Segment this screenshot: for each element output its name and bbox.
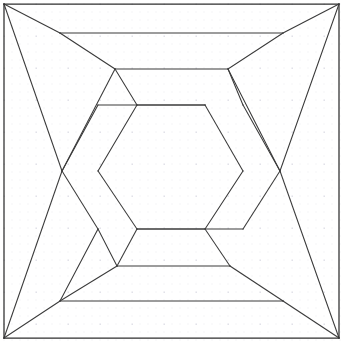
grid-dot xyxy=(268,180,269,181)
grid-dot xyxy=(220,260,221,261)
grid-dot xyxy=(36,84,37,85)
grid-dot xyxy=(100,324,101,325)
grid-dot xyxy=(140,316,141,317)
grid-dot xyxy=(188,260,189,261)
grid-dot xyxy=(164,100,165,101)
grid-dot xyxy=(340,20,341,21)
grid-dot xyxy=(188,12,189,13)
grid-dot xyxy=(188,316,189,317)
grid-dot xyxy=(68,20,69,21)
grid-dot xyxy=(220,140,221,141)
grid-dot xyxy=(76,308,77,309)
grid-dot xyxy=(164,332,165,333)
grid-dot xyxy=(308,220,309,221)
grid-dot xyxy=(308,108,309,109)
grid-dot xyxy=(300,244,301,245)
grid-dot xyxy=(28,172,29,173)
grid-dot xyxy=(172,236,173,237)
grid-dot xyxy=(236,340,237,341)
grid-dot xyxy=(316,212,317,213)
grid-dot xyxy=(12,100,13,101)
grid-dot xyxy=(76,100,77,101)
grid-dot xyxy=(132,52,133,53)
grid-dot xyxy=(292,292,293,293)
grid-dot xyxy=(212,260,213,261)
grid-dot xyxy=(36,292,37,293)
grid-dot xyxy=(12,324,13,325)
grid-dot xyxy=(332,188,333,189)
grid-dot xyxy=(60,236,61,237)
grid-dot xyxy=(60,108,61,109)
grid-dot xyxy=(12,300,13,301)
grid-dot xyxy=(268,340,269,341)
grid-dot xyxy=(236,68,237,69)
grid-dot xyxy=(76,36,77,37)
grid-dot xyxy=(300,92,301,93)
grid-dot xyxy=(164,156,165,157)
grid-dot xyxy=(124,108,125,109)
grid-dot xyxy=(156,12,157,13)
grid-dot xyxy=(292,140,293,141)
grid-dot xyxy=(20,228,21,229)
grid-dot xyxy=(20,196,21,197)
grid-dot xyxy=(300,68,301,69)
grid-dot xyxy=(84,84,85,85)
grid-dot xyxy=(300,52,301,53)
grid-dot xyxy=(324,204,325,205)
grid-dot xyxy=(116,124,117,125)
grid-dot xyxy=(20,236,21,237)
grid-dot xyxy=(244,332,245,333)
grid-dot xyxy=(292,220,293,221)
grid-dot xyxy=(244,148,245,149)
grid-dot xyxy=(68,324,69,325)
grid-dot xyxy=(236,44,237,45)
grid-dot xyxy=(324,276,325,277)
grid-dot xyxy=(132,164,133,165)
grid-dot xyxy=(188,284,189,285)
grid-dot xyxy=(180,44,181,45)
grid-dot xyxy=(124,204,125,205)
grid-dot xyxy=(12,180,13,181)
grid-dot xyxy=(124,124,125,125)
grid-dot xyxy=(220,220,221,221)
grid-dot xyxy=(132,44,133,45)
grid-dot xyxy=(156,324,157,325)
grid-dot xyxy=(212,76,213,77)
grid-dot xyxy=(236,204,237,205)
grid-dot xyxy=(308,292,309,293)
grid-dot xyxy=(148,60,149,61)
grid-dot xyxy=(156,300,157,301)
grid-dot xyxy=(164,36,165,37)
grid-dot xyxy=(44,12,45,13)
grid-dot xyxy=(92,164,93,165)
grid-dot xyxy=(220,164,221,165)
grid-dot xyxy=(292,68,293,69)
grid-dot xyxy=(260,108,261,109)
grid-dot xyxy=(212,148,213,149)
grid-dot xyxy=(52,316,53,317)
grid-dot xyxy=(292,12,293,13)
grid-dot xyxy=(156,108,157,109)
grid-dot xyxy=(52,332,53,333)
grid-dot xyxy=(228,20,229,21)
grid-dot xyxy=(292,252,293,253)
grid-dot xyxy=(76,92,77,93)
grid-dot xyxy=(36,284,37,285)
grid-dot xyxy=(252,68,253,69)
grid-dot xyxy=(260,28,261,29)
grid-dot xyxy=(132,332,133,333)
grid-dot xyxy=(260,332,261,333)
grid-dot xyxy=(92,44,93,45)
grid-dot xyxy=(36,196,37,197)
grid-dot xyxy=(260,148,261,149)
grid-dot xyxy=(308,28,309,29)
grid-dot xyxy=(156,204,157,205)
grid-dot xyxy=(140,196,141,197)
grid-dot xyxy=(20,156,21,157)
grid-dot xyxy=(116,204,117,205)
grid-dot xyxy=(156,116,157,117)
grid-dot xyxy=(148,188,149,189)
grid-dot xyxy=(140,140,141,141)
grid-dot xyxy=(140,340,141,341)
grid-dot xyxy=(36,308,37,309)
